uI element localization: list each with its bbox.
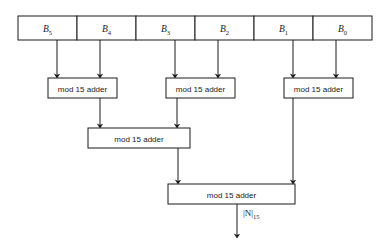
modulo-15-adder-tree-diagram: B5 B4 B3 B2 B1 B0 bbox=[0, 0, 388, 246]
mod-15-adder-5-label: mod 15 adder bbox=[207, 191, 257, 200]
adder-level-1: mod 15 adder mod 15 adder mod 15 adder bbox=[48, 78, 353, 98]
adder-level-2: mod 15 adder bbox=[88, 128, 190, 148]
wires-register-to-level1 bbox=[57, 40, 336, 76]
output-label: |N|15 bbox=[243, 208, 260, 220]
input-register: B5 B4 B3 B2 B1 B0 bbox=[18, 16, 372, 40]
adder-level-3: mod 15 adder bbox=[168, 184, 295, 204]
mod-15-adder-4-label: mod 15 adder bbox=[114, 135, 164, 144]
mod-15-adder-1-label: mod 15 adder bbox=[58, 85, 108, 94]
mod-15-adder-2-label: mod 15 adder bbox=[176, 85, 226, 94]
output-branch: |N|15 bbox=[237, 204, 260, 236]
mod-15-adder-3-label: mod 15 adder bbox=[294, 85, 344, 94]
